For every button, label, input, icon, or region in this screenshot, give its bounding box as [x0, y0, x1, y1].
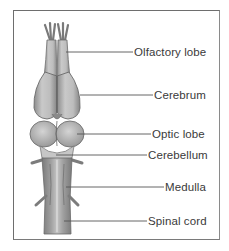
label-cerebrum: Cerebrum — [154, 89, 206, 101]
label-medulla: Medulla — [165, 181, 206, 193]
olfactory-nerves — [45, 23, 68, 40]
brain-illustration — [0, 0, 229, 251]
label-spinal-cord: Spinal cord — [148, 215, 207, 227]
label-olfactory-lobe: Olfactory lobe — [134, 46, 206, 58]
label-cerebellum: Cerebellum — [148, 149, 208, 161]
cerebrum-shape — [34, 72, 80, 119]
optic-lobe-shape — [30, 121, 84, 147]
label-optic-lobe: Optic lobe — [152, 128, 205, 140]
